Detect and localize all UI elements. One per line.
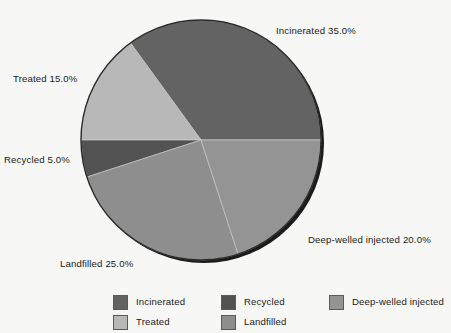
pie-slice-group bbox=[81, 20, 321, 260]
legend-item-treated[interactable]: Treated bbox=[113, 312, 221, 332]
slice-callout-incinerated: Incinerated 35.0% bbox=[276, 26, 356, 36]
legend-label: Incinerated bbox=[136, 297, 185, 307]
slice-callout-recycled: Recycled 5.0% bbox=[4, 155, 70, 165]
legend-item-incinerated[interactable]: Incinerated bbox=[113, 292, 221, 312]
pie-chart: Incinerated 35.0% Treated 15.0% Recycled… bbox=[0, 0, 451, 333]
legend-label: Recycled bbox=[244, 297, 285, 307]
legend-swatch-icon bbox=[221, 295, 236, 310]
legend-swatch-icon bbox=[113, 295, 128, 310]
legend-label: Treated bbox=[136, 317, 170, 327]
legend-swatch-icon bbox=[221, 315, 236, 330]
pie-svg bbox=[0, 0, 451, 333]
chart-legend: IncineratedRecycledDeep-welled injectedT… bbox=[113, 292, 443, 332]
legend-swatch-icon bbox=[329, 295, 344, 310]
legend-label: Deep-welled injected bbox=[352, 297, 444, 307]
legend-item-recycled[interactable]: Recycled bbox=[221, 292, 329, 312]
legend-label: Landfilled bbox=[244, 317, 287, 327]
slice-callout-treated: Treated 15.0% bbox=[13, 74, 78, 84]
pie-plot-area: Incinerated 35.0% Treated 15.0% Recycled… bbox=[0, 0, 451, 333]
legend-item-deep-welled-injected[interactable]: Deep-welled injected bbox=[329, 292, 444, 312]
slice-callout-deep-welled-injected: Deep-welled injected 20.0% bbox=[308, 235, 431, 245]
legend-swatch-icon bbox=[113, 315, 128, 330]
legend-item-landfilled[interactable]: Landfilled bbox=[221, 312, 329, 332]
slice-callout-landfilled: Landfilled 25.0% bbox=[60, 259, 133, 269]
